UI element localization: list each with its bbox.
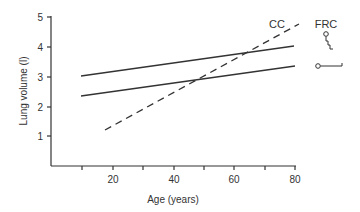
x-tick-label: 40 — [168, 174, 180, 185]
frc-supine-line — [81, 46, 294, 76]
y-axis — [47, 16, 51, 166]
upright-posture-icon — [316, 63, 342, 68]
frc-label: FRC — [315, 18, 338, 30]
y-tick-label: 5 — [37, 12, 43, 23]
x-tick-label: 20 — [107, 174, 119, 185]
cc-dashed-line — [105, 24, 299, 130]
x-tick-label: 60 — [228, 174, 240, 185]
y-tick-label: 2 — [37, 102, 43, 113]
y-axis-title: Lung volume (l) — [18, 57, 29, 126]
x-tick-label: 80 — [289, 174, 301, 185]
x-axis-title: Age (years) — [147, 194, 199, 205]
cc-label: CC — [269, 18, 285, 30]
x-axis — [51, 166, 296, 170]
lung-volume-chart: 5 4 3 2 1 20 40 60 80 Age (years) Lung v… — [0, 0, 360, 212]
y-tick-label: 1 — [37, 131, 43, 142]
frc-upright-line — [81, 66, 295, 96]
supine-posture-icon — [324, 32, 333, 49]
y-tick-label: 3 — [37, 72, 43, 83]
y-tick-label: 4 — [37, 42, 43, 53]
